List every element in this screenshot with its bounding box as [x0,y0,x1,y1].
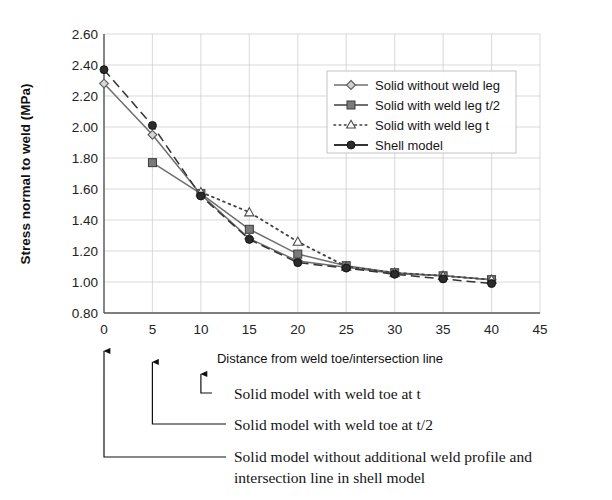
callout-leaders [104,351,226,457]
y-tick-label: 1.60 [72,182,98,197]
x-tick-label: 35 [436,322,451,337]
y-tick-label: 2.20 [72,89,98,104]
x-tick-label: 5 [149,322,157,337]
x-tick-label: 25 [339,322,354,337]
y-tick-label: 1.20 [72,244,98,259]
triangle-marker-icon [293,237,302,245]
annotation-no-weld-profile-line2: intersection line in shell model [234,469,425,486]
circle-marker-icon [245,235,253,243]
y-tick-label: 1.40 [72,213,98,228]
circle-marker-icon [347,141,355,149]
y-tick-label: 1.80 [72,151,98,166]
circle-marker-icon [148,121,156,129]
x-axis-title: Distance from weld toe/intersection line [217,351,443,366]
circle-marker-icon [342,264,350,272]
annotation-weld-toe-t: Solid model with weld toe at t [234,385,422,402]
circle-marker-icon [488,280,496,288]
legend-label: Solid with weld leg t [375,118,490,133]
y-tick-label: 2.00 [72,120,98,135]
square-marker-icon [245,225,253,233]
annotation-weld-toe-t2: Solid model with weld toe at t/2 [234,416,433,433]
x-tick-labels: 0 5 10 15 20 25 30 35 40 45 [100,322,547,337]
legend-label: Solid with weld leg t/2 [375,98,500,113]
x-tick-label: 15 [242,322,257,337]
chart-legend: Solid without weld leg Solid with weld l… [327,71,516,153]
y-tick-label: 2.40 [72,58,98,73]
circle-marker-icon [439,275,447,283]
square-marker-icon [294,250,302,258]
stress-distance-line-chart: 2.60 2.40 2.20 2.00 1.80 1.60 1.40 1.20 … [0,0,612,500]
x-tick-label: 40 [484,322,499,337]
x-tick-label: 10 [193,322,208,337]
x-tick-label: 0 [100,322,108,337]
series-line [152,163,491,280]
legend-label: Shell model [375,138,443,153]
circle-marker-icon [197,192,205,200]
x-tick-label: 30 [387,322,402,337]
callout-elbow-none [104,374,226,457]
y-tick-labels: 2.60 2.40 2.20 2.00 1.80 1.60 1.40 1.20 … [72,27,98,321]
x-tick-label: 20 [290,322,305,337]
circle-marker-icon [391,270,399,278]
circle-marker-icon [294,259,302,267]
annotation-no-weld-profile-line1: Solid model without additional weld prof… [234,448,532,465]
square-marker-icon [148,159,156,167]
y-axis-title: Stress normal to weld (MPa) [18,84,33,265]
chart-figure: 2.60 2.40 2.20 2.00 1.80 1.60 1.40 1.20 … [0,0,612,500]
legend-label: Solid without weld leg [375,78,500,93]
callout-elbow-t2 [152,374,226,424]
y-tick-label: 1.00 [72,275,98,290]
callout-elbow-t [201,385,212,393]
circle-marker-icon [100,66,108,74]
x-tick-label: 45 [532,322,547,337]
square-marker-icon [347,101,355,109]
y-tick-label: 0.80 [72,306,98,321]
y-tick-label: 2.60 [72,27,98,42]
